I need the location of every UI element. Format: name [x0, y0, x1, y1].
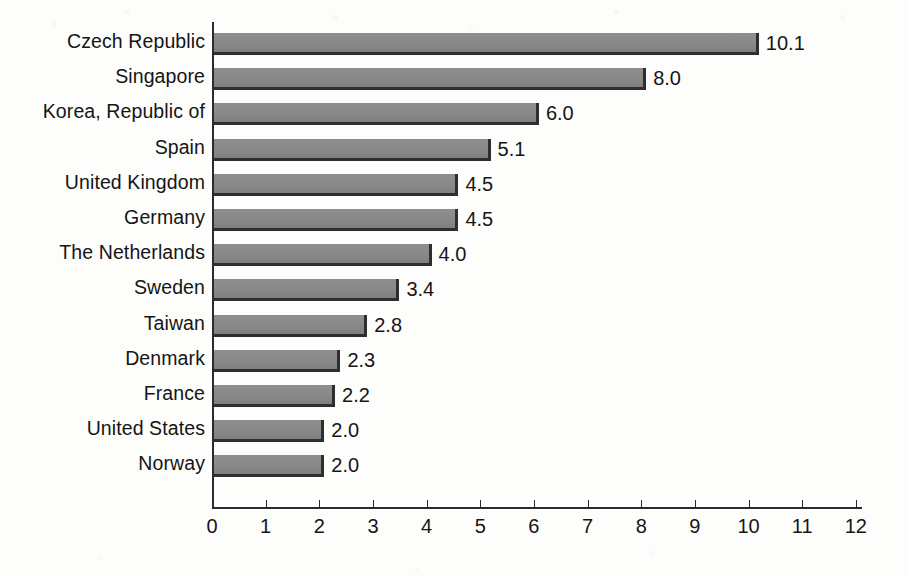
- bar-value-label: 8.0: [653, 67, 681, 89]
- x-axis-tick: [480, 500, 481, 508]
- bar-value-label: 10.1: [766, 32, 805, 54]
- bar: [214, 68, 646, 90]
- x-axis-tick-label: 6: [528, 515, 539, 537]
- bar-chart-plot-area: 0123456789101112Czech Republic10.1Singap…: [0, 0, 906, 576]
- x-axis-tick-label: 5: [475, 515, 486, 537]
- x-axis-tick: [588, 500, 589, 508]
- bar-value-label: 2.8: [374, 314, 402, 336]
- bar: [214, 103, 539, 125]
- category-label: Singapore: [115, 66, 205, 87]
- bar: [214, 279, 399, 301]
- category-label: Taiwan: [144, 313, 205, 334]
- x-axis-tick-label: 3: [367, 515, 378, 537]
- bar-value-label: 2.0: [331, 454, 359, 476]
- x-axis-tick-label: 4: [421, 515, 432, 537]
- x-axis-tick-label: 10: [737, 515, 759, 537]
- bar-value-label: 3.4: [406, 278, 434, 300]
- category-label: United States: [87, 418, 205, 439]
- category-label: United Kingdom: [65, 172, 205, 193]
- x-axis-tick-label: 7: [582, 515, 593, 537]
- bar: [214, 139, 491, 161]
- category-label: France: [144, 383, 205, 404]
- bar: [214, 315, 367, 337]
- category-label: Norway: [138, 453, 205, 474]
- x-axis-tick: [373, 500, 374, 508]
- bar-value-label: 4.5: [465, 173, 493, 195]
- category-label: Czech Republic: [67, 31, 205, 52]
- bar: [214, 385, 335, 407]
- bar-value-label: 2.3: [347, 349, 375, 371]
- x-axis-line: [212, 507, 862, 509]
- x-axis-tick: [534, 500, 535, 508]
- x-axis-tick-label: 1: [260, 515, 271, 537]
- category-label: Sweden: [134, 277, 205, 298]
- bar-value-label: 4.5: [465, 208, 493, 230]
- category-label: Germany: [124, 207, 205, 228]
- bar-value-label: 2.0: [331, 419, 359, 441]
- x-axis-tick: [856, 500, 857, 508]
- x-axis-tick: [641, 500, 642, 508]
- x-axis-tick: [695, 500, 696, 508]
- x-axis-tick: [749, 500, 750, 508]
- bar: [214, 244, 432, 266]
- bar: [214, 209, 458, 231]
- x-axis-tick-label: 0: [206, 515, 217, 537]
- bar: [214, 174, 458, 196]
- x-axis-tick: [427, 500, 428, 508]
- x-axis-tick: [212, 500, 213, 508]
- bar: [214, 350, 340, 372]
- category-label: The Netherlands: [59, 242, 205, 263]
- category-label: Korea, Republic of: [43, 101, 205, 122]
- x-axis-tick-label: 8: [636, 515, 647, 537]
- bar: [214, 455, 324, 477]
- x-axis-tick-label: 12: [845, 515, 867, 537]
- x-axis-tick: [802, 500, 803, 508]
- chart-page: 0123456789101112Czech Republic10.1Singap…: [0, 0, 906, 576]
- bar-value-label: 5.1: [498, 138, 526, 160]
- bar: [214, 33, 759, 55]
- bar-value-label: 2.2: [342, 384, 370, 406]
- category-label: Denmark: [125, 348, 205, 369]
- x-axis-tick-label: 2: [314, 515, 325, 537]
- x-axis-tick-label: 11: [792, 515, 813, 537]
- x-axis-tick: [319, 500, 320, 508]
- x-axis-tick-label: 9: [689, 515, 700, 537]
- bar: [214, 420, 324, 442]
- x-axis-tick: [266, 500, 267, 508]
- bar-value-label: 6.0: [546, 102, 574, 124]
- bar-value-label: 4.0: [439, 243, 467, 265]
- category-label: Spain: [155, 137, 205, 158]
